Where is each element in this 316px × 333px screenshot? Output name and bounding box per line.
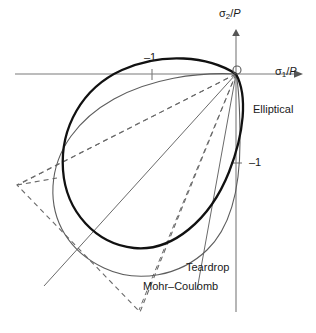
x-axis-normalizer: P <box>289 65 296 77</box>
elliptical-curve-group <box>63 58 243 248</box>
axes-group <box>15 29 303 312</box>
x-axis-label: σ1/P <box>275 66 297 79</box>
y-axis-arrowhead <box>232 29 240 36</box>
ray-solid-steep <box>197 74 236 290</box>
y-axis-normalizer: P <box>233 7 240 19</box>
y-axis-symbol: σ <box>219 7 226 19</box>
y-tick-label-minus-one: –1 <box>249 157 261 168</box>
x-axis-symbol: σ <box>275 65 282 77</box>
elliptical-outline <box>63 58 243 248</box>
ray-dashed-upper <box>20 74 236 184</box>
y-axis-label: σ2/P <box>219 8 241 21</box>
ray-solid-diagonal <box>44 74 236 286</box>
teardrop-curve-label: Teardrop <box>186 262 229 273</box>
mohr-coulomb-curve-label: Mohr–Coulomb <box>143 281 218 292</box>
yield-surface-figure: σ2/P σ1/P –1 –1 Elliptical Teardrop Mohr… <box>0 0 316 333</box>
ray-dashed-lower <box>139 74 236 310</box>
origin-circle-icon <box>233 66 241 74</box>
x-tick-label-minus-one: –1 <box>144 52 156 63</box>
elliptical-curve-label: Elliptical <box>253 104 293 115</box>
